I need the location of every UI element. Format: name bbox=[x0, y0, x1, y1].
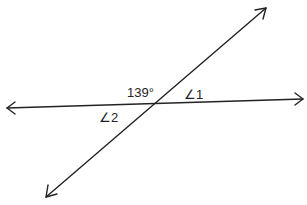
transversal-line bbox=[46, 8, 266, 197]
angle-2-label: ∠2 bbox=[99, 111, 118, 124]
angle-139-label: 139° bbox=[127, 86, 154, 99]
angle-1-label: ∠1 bbox=[184, 88, 203, 101]
angle-diagram bbox=[0, 0, 307, 205]
